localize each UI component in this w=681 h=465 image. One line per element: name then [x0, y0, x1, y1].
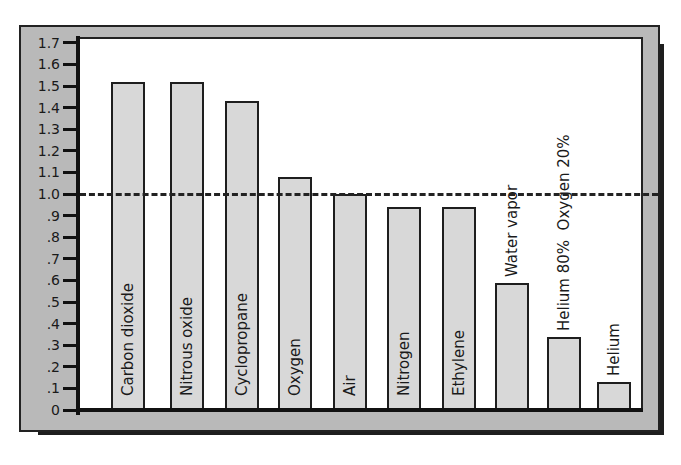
bar [597, 382, 631, 410]
bar-label: Helium [605, 323, 623, 376]
bar [495, 283, 529, 410]
y-tick-label: 0 [20, 402, 60, 418]
y-tick-label: .8 [20, 229, 60, 245]
y-tick-label: .9 [20, 208, 60, 224]
y-tick-label: 1.3 [20, 121, 60, 137]
bar [547, 337, 581, 410]
y-tick-label: .7 [20, 251, 60, 267]
reference-line-1.0 [80, 193, 658, 196]
bar-label: Helium 80% Oxygen 20% [555, 134, 573, 331]
y-axis [76, 36, 80, 415]
bar-label: Water vapor [503, 185, 521, 277]
y-tick-label: 1.6 [20, 56, 60, 72]
y-tick-label: 1.1 [20, 164, 60, 180]
y-tick-label: .3 [20, 337, 60, 353]
bar-label: Nitrous oxide [178, 297, 196, 396]
y-tick-label: 1.4 [20, 100, 60, 116]
bar-label: Carbon dioxide [119, 283, 137, 396]
bar-label: Air [341, 375, 359, 396]
y-tick-label: 1.7 [20, 35, 60, 51]
y-tick-label: 1.5 [20, 78, 60, 94]
y-tick-label: .2 [20, 359, 60, 375]
y-tick-label: .6 [20, 272, 60, 288]
y-tick-label: 1.0 [20, 186, 60, 202]
y-tick-label: 1.2 [20, 143, 60, 159]
y-tick-label: .1 [20, 380, 60, 396]
y-tick-label: .4 [20, 316, 60, 332]
bar-label: Ethylene [450, 330, 468, 396]
bar-label: Nitrogen [395, 331, 413, 396]
x-axis [76, 408, 643, 412]
bar-label: Cyclopropane [233, 293, 251, 396]
y-tick-label: .5 [20, 294, 60, 310]
bar-label: Oxygen [286, 338, 304, 396]
